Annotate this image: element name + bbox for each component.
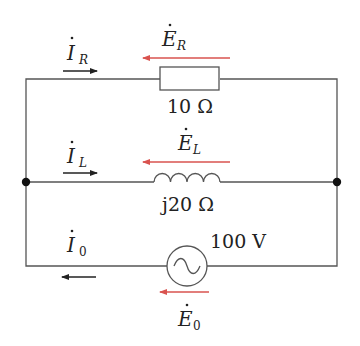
resistor-value: 10 Ω bbox=[167, 95, 213, 117]
label-emf-0: E 0 bbox=[177, 304, 201, 333]
ac-source bbox=[167, 246, 207, 286]
current-symbol: I bbox=[66, 233, 76, 257]
emf-subscript: L bbox=[192, 143, 201, 157]
junction-right bbox=[333, 178, 341, 186]
emf-symbol: E bbox=[177, 131, 193, 155]
top-wire-right bbox=[220, 79, 337, 182]
bottom-wire-right bbox=[207, 182, 337, 266]
circuit-diagram: I R E R 10 Ω I L E L j20 Ω I 0 100 V E 0 bbox=[0, 0, 360, 346]
resistor bbox=[160, 67, 219, 90]
label-current-l: I L bbox=[66, 141, 87, 170]
dot-accent bbox=[71, 37, 74, 40]
inductor bbox=[154, 174, 220, 183]
dot-accent bbox=[185, 128, 188, 131]
current-subscript: L bbox=[78, 156, 87, 170]
label-current-0: I 0 bbox=[66, 230, 87, 259]
dot-accent bbox=[186, 304, 189, 307]
current-subscript: 0 bbox=[79, 245, 87, 259]
current-symbol: I bbox=[66, 144, 76, 168]
source-value: 100 V bbox=[210, 230, 266, 252]
current-subscript: R bbox=[78, 53, 88, 67]
inductor-value: j20 Ω bbox=[160, 193, 214, 215]
label-emf-l: E L bbox=[177, 128, 201, 157]
label-emf-r: E R bbox=[161, 24, 186, 53]
dot-accent bbox=[71, 230, 74, 233]
top-wire-left bbox=[26, 79, 160, 182]
emf-symbol: E bbox=[161, 27, 177, 51]
dot-accent bbox=[169, 24, 172, 27]
dot-accent bbox=[71, 141, 74, 144]
emf-symbol: E bbox=[177, 307, 193, 331]
current-symbol: I bbox=[66, 41, 76, 65]
emf-subscript: 0 bbox=[193, 319, 201, 333]
junction-left bbox=[22, 178, 30, 186]
label-current-r: I R bbox=[66, 37, 88, 67]
emf-subscript: R bbox=[176, 39, 186, 53]
bottom-wire-left bbox=[26, 182, 167, 266]
